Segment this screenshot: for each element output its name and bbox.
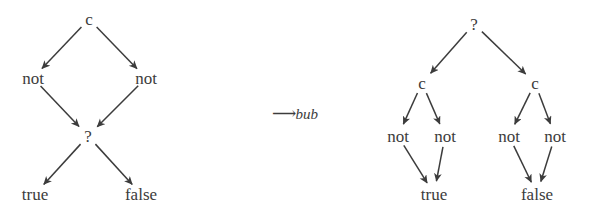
- tree-edge-r-not-2-to-r-true: [436, 147, 443, 181]
- tree-edge-r-c-2-to-r-not-4: [539, 93, 551, 124]
- relation-name: bub: [295, 106, 318, 122]
- tree-edge-r-not-3-to-r-false: [514, 146, 532, 182]
- tree-edge-r-q-to-r-c-1: [431, 32, 467, 73]
- tree-node-r-true: true: [421, 186, 447, 203]
- tree-edge-r-c-1-to-r-not-1: [403, 93, 417, 124]
- tree-edge-l-c-to-l-not-2: [97, 27, 137, 69]
- tree-node-r-not-3: not: [498, 128, 520, 145]
- tree-edge-l-not-1-to-l-q: [41, 86, 79, 127]
- tree-edge-r-c-2-to-r-not-3: [515, 93, 530, 124]
- tree-node-r-not-1: not: [387, 128, 409, 145]
- tree-node-l-false: false: [125, 186, 157, 203]
- tree-node-r-not-2: not: [434, 128, 456, 145]
- rewrite-relation-label: ⟶bub: [272, 105, 318, 122]
- tree-edge-r-not-1-to-r-true: [404, 145, 427, 183]
- tree-node-l-true: true: [22, 186, 48, 203]
- tree-edge-l-q-to-l-true: [44, 144, 81, 184]
- tree-edge-l-q-to-l-false: [95, 144, 132, 184]
- tree-node-l-q: ?: [84, 128, 92, 145]
- tree-node-l-c: c: [85, 11, 93, 28]
- rightarrow-icon: ⟶: [272, 104, 295, 123]
- tree-edge-l-not-2-to-l-q: [97, 86, 138, 127]
- tree-node-r-false: false: [521, 186, 553, 203]
- tree-node-r-q: ?: [470, 16, 478, 33]
- rewrite-rule-figure: cnotnot?truefalse?ccnotnotnotnottruefals…: [0, 0, 595, 212]
- tree-node-r-c-1: c: [418, 75, 426, 92]
- tree-node-l-not-2: not: [135, 70, 157, 87]
- tree-edge-l-c-to-l-not-1: [42, 27, 81, 69]
- tree-edge-r-q-to-r-c-2: [482, 32, 526, 74]
- tree-node-r-not-4: not: [544, 128, 566, 145]
- tree-node-l-not-1: not: [22, 70, 44, 87]
- tree-edge-r-not-4-to-r-false: [541, 147, 552, 182]
- tree-edge-r-c-1-to-r-not-2: [426, 93, 439, 124]
- tree-node-r-c-2: c: [531, 75, 539, 92]
